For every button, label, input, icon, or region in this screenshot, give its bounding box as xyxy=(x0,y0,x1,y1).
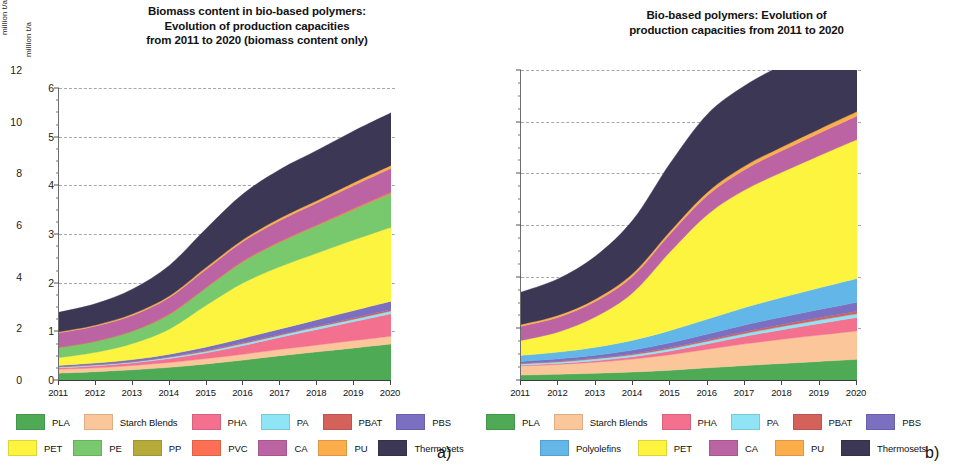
chart-b-plot-area xyxy=(520,70,857,381)
x-axis-tick-label: 2013 xyxy=(122,387,142,398)
legend-swatch-icon xyxy=(323,414,352,430)
y-axis-tick-label: 0 xyxy=(32,374,54,386)
chart-b-title-line1: Bio-based polymers: Evolution of xyxy=(528,8,945,23)
legend-item-pu[interactable]: PU xyxy=(318,440,367,456)
legend-item-starch-blends[interactable]: Starch Blends xyxy=(554,414,648,430)
legend-swatch-icon xyxy=(540,440,569,456)
legend-swatch-icon xyxy=(258,440,287,456)
legend-label: PHA xyxy=(228,417,247,428)
legend-item-pvc[interactable]: PVC xyxy=(192,440,247,456)
chart-a-title-line2: Evolution of production capacities xyxy=(52,19,462,34)
x-axis-tick-mark xyxy=(279,380,280,385)
stacked-area-series xyxy=(59,88,391,380)
y-axis-tick-label: 4 xyxy=(32,179,54,191)
legend-item-pha[interactable]: PHA xyxy=(192,414,247,430)
legend-swatch-icon xyxy=(841,440,870,456)
x-axis-tick-mark xyxy=(520,380,521,385)
legend-label: Starch Blends xyxy=(120,417,178,428)
legend-row: PLAStarch BlendsPHAPAPBATPBS xyxy=(16,414,451,430)
legend-swatch-icon xyxy=(486,414,515,430)
chart-b-title-line2: production capacities from 2011 to 2020 xyxy=(528,23,945,38)
y-axis-minor-tick xyxy=(518,95,521,96)
legend-label: PVC xyxy=(228,443,247,454)
y-axis-tick-label: 1 xyxy=(32,325,54,337)
y-axis-minor-tick xyxy=(56,124,59,125)
chart-b-title: Bio-based polymers: Evolution of product… xyxy=(528,8,945,37)
x-axis-tick-label: 2018 xyxy=(306,387,326,398)
legend-item-pa[interactable]: PA xyxy=(261,414,309,430)
y-axis-minor-tick xyxy=(56,161,59,162)
legend-item-polyolefins[interactable]: Polyolefins xyxy=(540,440,621,456)
y-axis-minor-tick xyxy=(518,199,521,200)
legend-row: PETPEPPPVCCAPUThermosets xyxy=(8,440,464,456)
y-axis-minor-tick xyxy=(56,173,59,174)
legend-label: Thermosets xyxy=(877,443,926,454)
y-axis-minor-tick xyxy=(518,147,521,148)
x-axis-tick-label: 2014 xyxy=(158,387,178,398)
x-axis-tick-mark xyxy=(169,380,170,385)
legend-item-pbat[interactable]: PBAT xyxy=(323,414,383,430)
legend-swatch-icon xyxy=(8,440,37,456)
y-axis-minor-tick xyxy=(518,134,521,135)
legend-label: PE xyxy=(109,443,121,454)
legend-swatch-icon xyxy=(16,414,45,430)
stacked-area-series xyxy=(521,70,857,380)
x-axis-tick-mark xyxy=(819,380,820,385)
legend-swatch-icon xyxy=(731,414,760,430)
y-axis-tick-mark xyxy=(54,234,59,235)
y-axis-tick-mark xyxy=(516,70,521,71)
x-axis-tick-mark xyxy=(206,380,207,385)
legend-item-pbat[interactable]: PBAT xyxy=(793,414,853,430)
x-axis-tick-label: 2017 xyxy=(734,387,754,398)
legend-label: PBS xyxy=(902,417,921,428)
y-axis-tick-label: 2 xyxy=(0,322,22,334)
legend-item-starch-blends[interactable]: Starch Blends xyxy=(84,414,178,430)
legend-item-pet[interactable]: PET xyxy=(8,440,62,456)
legend-item-pla[interactable]: PLA xyxy=(16,414,70,430)
legend-swatch-icon xyxy=(318,440,347,456)
legend-item-pu[interactable]: PU xyxy=(775,440,824,456)
legend-swatch-icon xyxy=(662,414,691,430)
legend-label: PLA xyxy=(52,417,70,428)
legend-item-ca[interactable]: CA xyxy=(258,440,307,456)
x-axis-tick-label: 2017 xyxy=(269,387,289,398)
x-axis-tick-label: 2016 xyxy=(696,387,716,398)
legend-label: PHA xyxy=(698,417,717,428)
chart-b-y-axis-label: million t/a xyxy=(0,0,9,35)
y-axis-minor-tick xyxy=(518,302,521,303)
y-axis-minor-tick xyxy=(56,148,59,149)
legend-label: PP xyxy=(169,443,181,454)
legend-label: PA xyxy=(297,417,309,428)
legend-swatch-icon xyxy=(192,414,221,430)
legend-swatch-icon xyxy=(133,440,162,456)
legend-item-pbs[interactable]: PBS xyxy=(396,414,451,430)
legend-item-pla[interactable]: PLA xyxy=(486,414,540,430)
x-axis-tick-label: 2020 xyxy=(846,387,866,398)
legend-item-pa[interactable]: PA xyxy=(731,414,779,430)
y-axis-minor-tick xyxy=(518,237,521,238)
legend-swatch-icon xyxy=(84,414,113,430)
legend-item-pe[interactable]: PE xyxy=(73,440,121,456)
legend-item-pet[interactable]: PET xyxy=(638,440,692,456)
legend-swatch-icon xyxy=(709,440,738,456)
y-axis-minor-tick xyxy=(56,294,59,295)
legend-item-pp[interactable]: PP xyxy=(133,440,181,456)
x-axis-tick-mark xyxy=(744,380,745,385)
legend-label: PU xyxy=(354,443,367,454)
legend-swatch-icon xyxy=(775,440,804,456)
y-axis-minor-tick xyxy=(518,315,521,316)
x-axis-tick-mark xyxy=(707,380,708,385)
legend-item-pbs[interactable]: PBS xyxy=(866,414,921,430)
x-axis-tick-label: 2020 xyxy=(380,387,400,398)
x-axis-tick-label: 2019 xyxy=(808,387,828,398)
y-axis-minor-tick xyxy=(56,221,59,222)
legend-item-thermosets[interactable]: Thermosets xyxy=(841,440,926,456)
legend-swatch-icon xyxy=(793,414,822,430)
legend-item-ca[interactable]: CA xyxy=(709,440,758,456)
y-axis-tick-mark xyxy=(516,276,521,277)
legend-item-pha[interactable]: PHA xyxy=(662,414,717,430)
legend-label: PLA xyxy=(522,417,540,428)
y-axis-minor-tick xyxy=(56,343,59,344)
chart-a-y-axis-label: million t/a xyxy=(24,22,33,57)
y-axis-minor-tick xyxy=(518,82,521,83)
